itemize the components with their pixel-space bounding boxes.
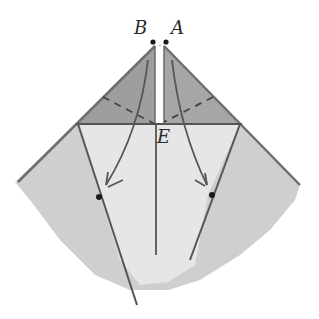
- label-point-b: B: [134, 19, 147, 37]
- center-slit: [155, 46, 164, 124]
- point-b-dot: [150, 39, 155, 44]
- label-point-a: A: [171, 19, 184, 37]
- label-point-e: E: [157, 128, 170, 146]
- origami-diagram: [0, 0, 319, 319]
- right-target-dot: [209, 192, 215, 198]
- point-a-dot: [163, 39, 168, 44]
- left-target-dot: [96, 194, 102, 200]
